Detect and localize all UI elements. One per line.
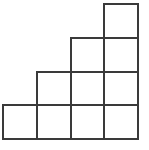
grid-square [103, 104, 139, 140]
grid-square [103, 71, 139, 106]
staircase-diagram [0, 0, 149, 150]
grid-square [70, 37, 105, 73]
grid-square [36, 104, 72, 140]
grid-square [103, 37, 139, 73]
grid-square [103, 3, 139, 39]
grid-square [2, 104, 38, 140]
grid-square [70, 104, 105, 140]
grid-square [36, 71, 72, 106]
grid-square [70, 71, 105, 106]
